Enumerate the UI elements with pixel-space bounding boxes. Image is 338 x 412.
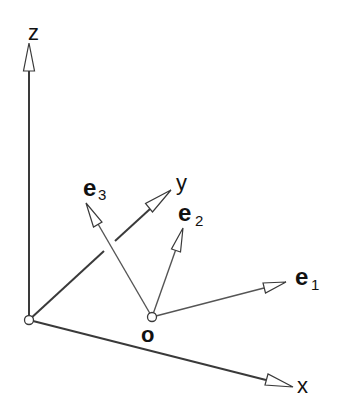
y-arrow-head-icon bbox=[146, 190, 172, 212]
e3-vector bbox=[86, 203, 152, 317]
e2-vector bbox=[152, 228, 183, 317]
y-axis bbox=[29, 190, 171, 320]
x-axis-label: x bbox=[297, 373, 308, 398]
origin-point-o bbox=[148, 313, 157, 322]
e3-label-sub: 3 bbox=[98, 186, 106, 203]
e3-label-main: e bbox=[83, 174, 96, 201]
e1-label: e 1 bbox=[295, 263, 319, 293]
y-axis-label: y bbox=[176, 170, 187, 195]
e2-arrow-head-icon bbox=[172, 228, 184, 252]
z-arrow-head-icon bbox=[24, 43, 35, 71]
origin-o-label: o bbox=[141, 322, 154, 347]
e1-arrow-head-icon bbox=[263, 282, 286, 293]
z-axis bbox=[24, 43, 35, 320]
e3-label: e 3 bbox=[83, 174, 106, 203]
z-axis-label: z bbox=[28, 20, 39, 45]
origin-point-O bbox=[25, 316, 34, 325]
x-axis bbox=[29, 320, 293, 387]
e2-label-main: e bbox=[178, 199, 191, 226]
coordinate-frame-diagram: z y x o e 3 e 2 e 1 bbox=[0, 0, 338, 412]
e1-label-sub: 1 bbox=[311, 276, 319, 293]
x-arrow-head-icon bbox=[265, 374, 293, 387]
e1-vector bbox=[152, 282, 286, 317]
e1-label-main: e bbox=[295, 263, 308, 290]
e2-label: e 2 bbox=[178, 199, 203, 229]
e2-label-sub: 2 bbox=[195, 212, 203, 229]
e3-arrow-head-icon bbox=[86, 203, 102, 227]
